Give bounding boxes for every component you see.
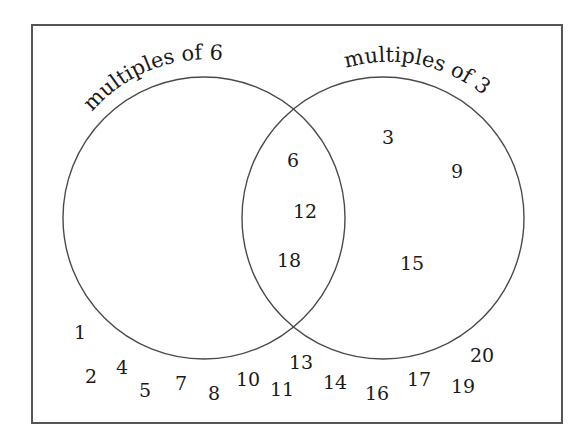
number-12: 12 <box>293 200 317 222</box>
circle-multiples-of-3 <box>242 77 524 359</box>
number-3: 3 <box>382 126 394 148</box>
number-8: 8 <box>208 382 220 404</box>
number-1: 1 <box>74 321 86 343</box>
number-13: 13 <box>289 351 313 373</box>
number-2: 2 <box>85 365 97 387</box>
label-multiples-of-3: multiples of 3 <box>342 43 496 100</box>
number-7: 7 <box>175 372 187 394</box>
number-15: 15 <box>400 252 424 274</box>
number-19: 19 <box>451 375 475 397</box>
number-10: 10 <box>236 368 260 390</box>
number-16: 16 <box>365 382 389 404</box>
number-9: 9 <box>451 160 463 182</box>
number-5: 5 <box>139 379 151 401</box>
label-multiples-of-6: multiples of 6 <box>78 40 224 115</box>
number-6: 6 <box>287 149 299 171</box>
number-4: 4 <box>116 356 128 378</box>
number-14: 14 <box>323 371 347 393</box>
venn-diagram: multiples of 6 multiples of 3 6 12 18 3 … <box>0 0 574 442</box>
number-18: 18 <box>277 249 301 271</box>
number-11: 11 <box>270 378 294 400</box>
number-20: 20 <box>470 344 494 366</box>
number-17: 17 <box>407 368 431 390</box>
